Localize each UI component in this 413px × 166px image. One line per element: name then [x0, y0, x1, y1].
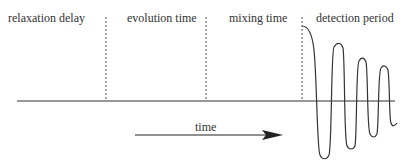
time-arrow-label: time — [195, 120, 216, 134]
diagram-canvas — [0, 0, 413, 166]
fid-waveform — [302, 26, 397, 159]
